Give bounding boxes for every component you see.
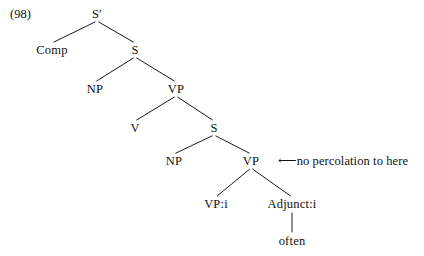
left-arrow-icon: ⟵ <box>278 153 297 168</box>
branch-vp-upper-to-v <box>137 97 175 120</box>
branch-s-upper-to-vp-upper <box>137 58 175 81</box>
tree-node-vp-lower: VP <box>243 155 259 168</box>
branch-vp-lower-to-vp-i <box>218 169 250 195</box>
tree-node-np-lower: NP <box>166 155 182 168</box>
tree-node-v: V <box>130 122 139 135</box>
tree-node-s-lower: S <box>210 122 217 135</box>
annotation-label: no percolation to here <box>297 154 409 168</box>
percolation-annotation: ⟵no percolation to here <box>278 154 408 168</box>
branch-s-upper-to-np-upper <box>97 58 134 81</box>
tree-node-comp: Comp <box>36 44 67 57</box>
branch-s-bar-to-s-upper <box>99 22 134 42</box>
branch-vp-upper-to-s-lower <box>178 97 213 120</box>
branch-s-lower-to-vp-lower <box>216 136 249 153</box>
tree-node-adjunct-i: Adjunct:i <box>267 198 316 211</box>
tree-node-vp-upper: VP <box>168 83 184 96</box>
tree-node-s-upper: S <box>131 44 138 57</box>
tree-node-often: often <box>279 235 306 248</box>
tree-node-vp-i: VP:i <box>204 198 228 211</box>
tree-node-s-bar: S′ <box>92 8 102 21</box>
branch-vp-lower-to-adjunct-i <box>253 169 291 196</box>
branch-s-bar-to-comp <box>54 22 95 42</box>
tree-node-np-upper: NP <box>87 83 103 96</box>
branch-s-lower-to-np-lower <box>176 136 212 153</box>
